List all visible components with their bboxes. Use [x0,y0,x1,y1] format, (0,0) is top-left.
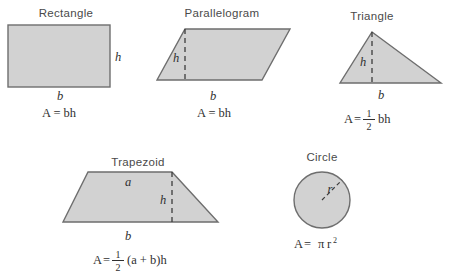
circle-formula-lhs: A [294,237,303,251]
triangle-formula-equals: = [354,112,361,126]
shape-group-triangle: Triangle h b A = 1 2 bh [340,10,441,132]
triangle-base-label: b [378,88,384,102]
trapezoid-height-label: h [160,193,166,207]
triangle-formula-numerator: 1 [367,108,372,119]
circle-title: Circle [306,151,337,163]
trapezoid-title: Trapezoid [111,156,164,168]
rectangle-formula-text: A = bh [42,106,77,120]
circle-radius-label: r [328,182,333,196]
triangle-formula-rhs: bh [378,112,391,126]
trapezoid-formula-denominator: 2 [116,262,121,273]
shape-group-rectangle: Rectangle h b A = bh [8,7,121,120]
triangle-formula-denominator: 2 [367,121,372,132]
shape-group-trapezoid: Trapezoid a h b A = 1 2 (a + b)h [63,156,218,273]
trapezoid-formula-rhs: (a + b)h [127,253,167,267]
triangle-title: Triangle [350,10,394,22]
triangle-shape [340,32,441,83]
parallelogram-title: Parallelogram [185,7,260,19]
trapezoid-shape [63,172,218,222]
circle-formula-exponent: 2 [333,236,337,245]
rectangle-height-label: h [115,50,121,64]
rectangle-base-label: b [57,89,63,103]
parallelogram-base-label: b [210,89,216,103]
shape-group-parallelogram: Parallelogram h b A = bh [157,7,290,120]
parallelogram-formula-text: A = bh [197,106,232,120]
parallelogram-height-label: h [173,51,179,65]
rectangle-shape [8,25,110,87]
circle-formula: A = π r 2 [294,236,337,251]
area-formulas-figure: Rectangle h b A = bh Parallelogram h b A… [0,0,457,279]
circle-formula-equals: = [304,237,311,251]
triangle-formula: A = 1 2 bh [344,108,391,132]
trapezoid-formula-lhs: A [93,253,102,267]
trapezoid-top-base-label: a [125,175,131,189]
triangle-formula-lhs: A [344,112,353,126]
shape-group-circle: Circle r A = π r 2 [294,151,350,251]
trapezoid-base-label: b [125,229,131,243]
parallelogram-formula: A = bh [197,106,232,120]
trapezoid-formula: A = 1 2 (a + b)h [93,249,167,273]
circle-formula-pi: π [318,237,325,251]
circle-formula-radius-var: r [327,237,332,251]
trapezoid-formula-numerator: 1 [116,249,121,260]
rectangle-formula: A = bh [42,106,77,120]
rectangle-title: Rectangle [39,7,93,19]
triangle-height-label: h [360,55,366,69]
trapezoid-formula-equals: = [103,253,110,267]
